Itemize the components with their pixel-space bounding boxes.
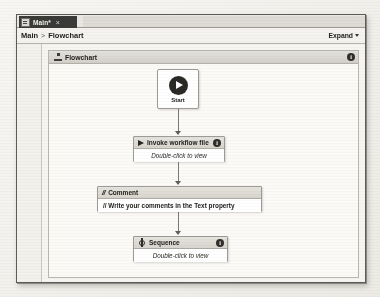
breadcrumb-separator: > — [41, 32, 45, 39]
tab-strip-empty-area — [83, 16, 365, 27]
info-icon[interactable]: i — [347, 53, 355, 61]
flowchart-body[interactable]: Start Invoke workflow file i Double-clic… — [49, 64, 358, 277]
connector-comment-to-sequence — [178, 212, 179, 232]
node-invoke-workflow-file[interactable]: Invoke workflow file i Double-click to v… — [133, 136, 225, 162]
flowchart-header[interactable]: Flowchart i — [49, 51, 358, 64]
node-sequence-body[interactable]: Double-click to view — [134, 249, 227, 262]
tab-main[interactable]: Main* × — [19, 16, 77, 28]
chevron-down-icon — [355, 34, 359, 37]
flowchart-icon — [54, 53, 62, 61]
breadcrumb: Main > Flowchart — [21, 31, 84, 40]
expand-label: Expand — [328, 32, 353, 39]
node-invoke-title: Invoke workflow file — [147, 139, 209, 146]
breadcrumb-bar: Main > Flowchart Expand — [17, 28, 365, 44]
close-icon[interactable]: × — [56, 19, 60, 26]
breadcrumb-item-flowchart[interactable]: Flowchart — [48, 31, 83, 40]
node-comment[interactable]: // Comment // Write your comments in the… — [97, 186, 262, 212]
tab-strip: Main* × — [17, 15, 365, 28]
node-sequence-header[interactable]: Sequence i — [134, 237, 227, 249]
page-background: Main* × Main > Flowchart Expand Flowch — [0, 0, 380, 297]
node-comment-title: Comment — [108, 189, 138, 196]
designer-canvas[interactable]: Flowchart i Start — [17, 44, 365, 282]
node-sequence[interactable]: Sequence i Double-click to view — [133, 236, 228, 262]
tab-label: Main* — [33, 19, 51, 26]
expand-button[interactable]: Expand — [328, 32, 361, 39]
connector-arrow-invoke — [175, 131, 181, 135]
comment-slashes-icon: // — [102, 189, 105, 197]
breadcrumb-item-main[interactable]: Main — [21, 31, 38, 40]
node-start[interactable]: Start — [157, 69, 199, 109]
connector-start-to-invoke — [178, 109, 179, 132]
play-icon — [138, 140, 144, 146]
info-icon[interactable]: i — [216, 239, 224, 247]
flowchart-title: Flowchart — [65, 54, 97, 61]
node-invoke-body[interactable]: Double-click to view — [134, 149, 224, 162]
document-icon — [21, 18, 30, 27]
info-icon[interactable]: i — [213, 139, 221, 147]
start-label: Start — [171, 97, 185, 103]
node-invoke-header[interactable]: Invoke workflow file i — [134, 137, 224, 149]
flowchart-container[interactable]: Flowchart i Start — [48, 50, 359, 278]
connector-invoke-to-comment — [178, 162, 179, 182]
sequence-icon — [138, 239, 146, 247]
canvas-left-rail — [17, 44, 42, 282]
node-invoke-body-text: Double-click to view — [151, 152, 207, 159]
node-comment-body[interactable]: // Write your comments in the Text prope… — [98, 199, 261, 212]
connector-arrow-comment — [175, 181, 181, 185]
app-window: Main* × Main > Flowchart Expand Flowch — [16, 14, 366, 283]
node-sequence-title: Sequence — [149, 239, 180, 246]
node-comment-header[interactable]: // Comment — [98, 187, 261, 199]
connector-arrow-sequence — [175, 231, 181, 235]
node-sequence-body-text: Double-click to view — [153, 252, 209, 259]
node-comment-body-text: // Write your comments in the Text prope… — [103, 202, 235, 209]
play-circle-icon — [169, 76, 188, 95]
